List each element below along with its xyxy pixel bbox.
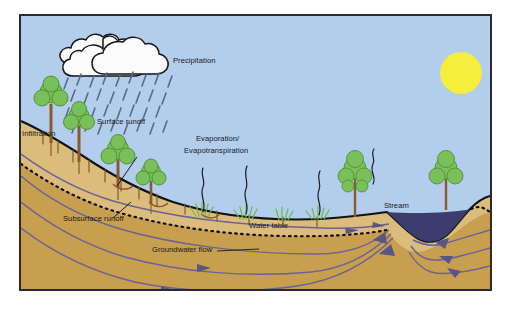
- label-surface-runoff: Surface runoff: [97, 117, 146, 126]
- figure-frame: Precipitation Infiltration Surface runof…: [19, 14, 492, 291]
- label-water-table: Water table: [249, 221, 288, 230]
- label-infiltration: Infiltration: [22, 129, 56, 138]
- label-evaporation-line1: Evaporation/: [196, 134, 240, 143]
- label-evaporation-line2: Evapotranspiration: [184, 146, 248, 155]
- label-stream: Stream: [384, 201, 409, 210]
- label-subsurface-runoff: Subsurface runoff: [63, 214, 124, 223]
- label-groundwater-flow: Groundwater flow: [152, 245, 213, 254]
- sun-icon: [440, 52, 482, 94]
- hydrologic-cycle-scene: Precipitation Infiltration Surface runof…: [21, 16, 490, 289]
- label-precipitation: Precipitation: [173, 56, 215, 65]
- figure-root: Precipitation Infiltration Surface runof…: [0, 0, 509, 313]
